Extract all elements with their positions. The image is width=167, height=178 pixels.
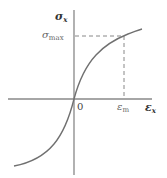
stress-strain-diagram (0, 0, 167, 178)
origin-label: 0 (77, 102, 83, 112)
x-axis-label-subscript: x (152, 106, 156, 115)
y-axis-label: σx (55, 11, 67, 23)
origin-text: 0 (77, 101, 83, 112)
sigma-max-label: σmax (42, 30, 64, 42)
y-axis-label-subscript: x (63, 15, 67, 24)
y-axis-label-symbol: σ (55, 10, 63, 23)
x-axis-label-symbol: ε (145, 101, 152, 114)
x-axis-label: εx (145, 102, 156, 114)
epsilon-m-label: εm (117, 102, 129, 114)
sigma-max-subscript: max (49, 34, 64, 42)
stress-strain-curve (14, 29, 142, 166)
epsilon-m-subscript: m (122, 106, 129, 114)
sigma-max-symbol: σ (42, 29, 49, 40)
